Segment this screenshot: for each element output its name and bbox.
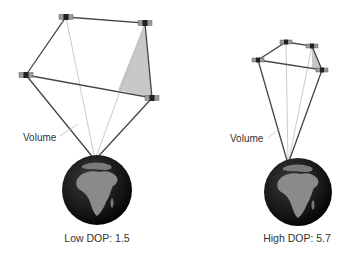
low-dop-caption: Low DOP: 1.5 bbox=[64, 232, 129, 244]
satellite-icon bbox=[316, 68, 328, 73]
signal-line bbox=[258, 60, 288, 164]
signal-line bbox=[95, 98, 152, 160]
satellite-icon bbox=[138, 20, 152, 26]
earth-globe-icon bbox=[264, 158, 332, 226]
satellite-icon bbox=[145, 95, 159, 101]
volume-label-high: Volume bbox=[230, 133, 263, 144]
signal-line bbox=[66, 17, 95, 160]
volume-shading bbox=[118, 23, 152, 98]
low-dop-diagram bbox=[19, 14, 159, 225]
dop-diagram: Volume Low DOP: 1.5 Volume High DOP: 5.7 bbox=[0, 0, 349, 259]
volume-pointer bbox=[60, 124, 78, 136]
dop-illustration bbox=[0, 0, 349, 259]
signal-line bbox=[288, 70, 322, 164]
satellite-icon bbox=[59, 14, 73, 20]
volume-pointer bbox=[268, 128, 280, 138]
signal-line bbox=[286, 42, 288, 164]
high-dop-diagram bbox=[252, 40, 332, 227]
satellite-icon bbox=[252, 58, 264, 63]
earth-globe-icon bbox=[62, 155, 132, 225]
signal-line bbox=[288, 46, 312, 164]
high-dop-caption: High DOP: 5.7 bbox=[263, 232, 331, 244]
volume-label-low: Volume bbox=[23, 132, 56, 143]
satellite-icon bbox=[306, 44, 318, 49]
signal-line bbox=[26, 75, 95, 160]
satellite-icon bbox=[19, 72, 33, 78]
satellite-icon bbox=[280, 40, 292, 45]
